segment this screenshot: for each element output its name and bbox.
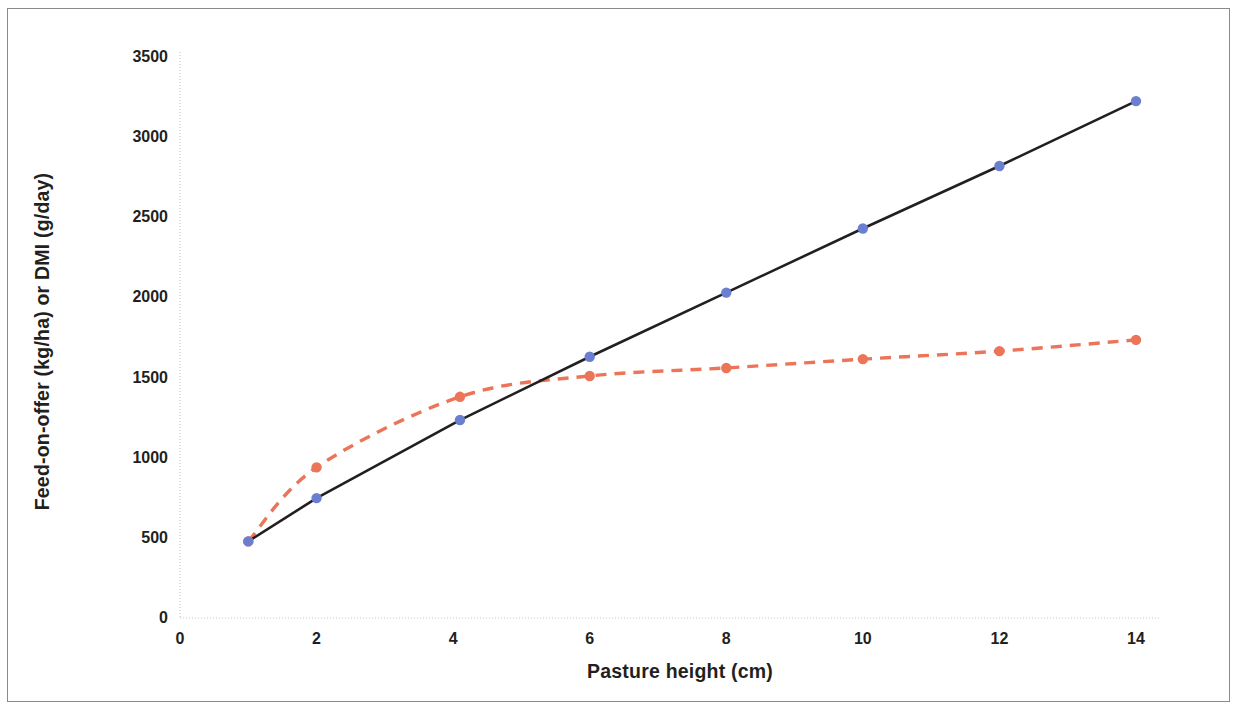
plot-area xyxy=(0,0,1238,712)
data-point-marker xyxy=(311,493,321,503)
data-point-marker xyxy=(585,371,595,381)
data-point-marker xyxy=(994,346,1004,356)
data-point-marker xyxy=(585,352,595,362)
data-point-marker xyxy=(243,536,253,546)
chart-figure: Feed-on-offer (kg/ha) or DMI (g/day) Pas… xyxy=(0,0,1238,712)
data-point-marker xyxy=(858,223,868,233)
axes xyxy=(180,52,1160,618)
series-line-1 xyxy=(248,340,1136,541)
data-point-marker xyxy=(455,392,465,402)
data-point-marker xyxy=(858,354,868,364)
data-point-marker xyxy=(994,161,1004,171)
data-point-marker xyxy=(721,363,731,373)
data-point-marker xyxy=(721,287,731,297)
data-point-marker xyxy=(455,415,465,425)
data-point-marker xyxy=(1131,96,1141,106)
data-point-marker xyxy=(1131,335,1141,345)
data-point-marker xyxy=(311,462,321,472)
